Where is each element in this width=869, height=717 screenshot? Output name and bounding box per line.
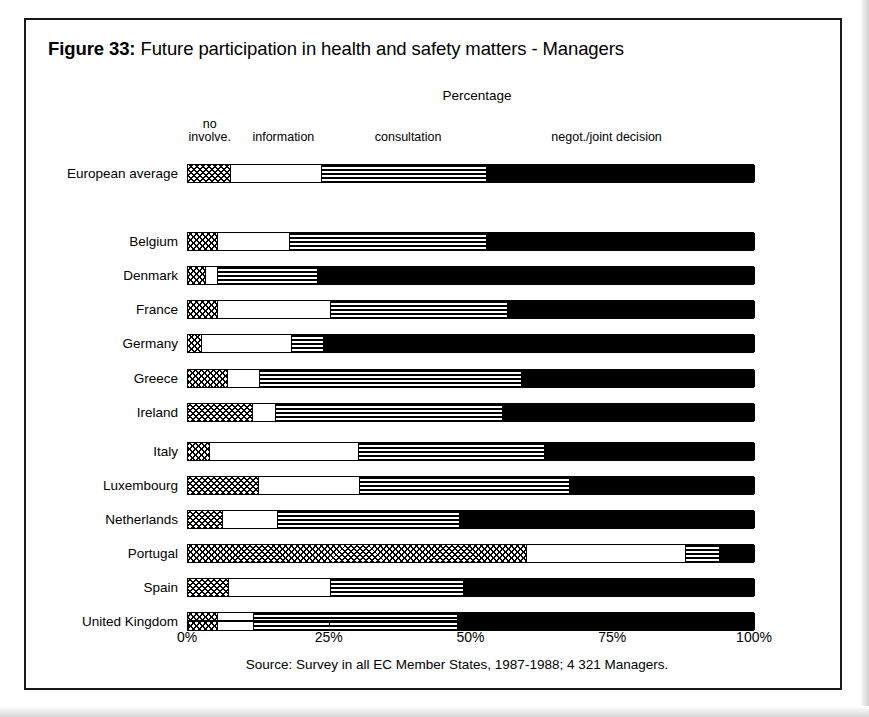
- bar-segment-negotiation: [487, 233, 755, 250]
- bar-segment-consultation: [290, 233, 487, 250]
- page-edge-right: [860, 0, 869, 717]
- bar-segment-information: [228, 370, 260, 387]
- bar-segment-information: [259, 477, 360, 494]
- bar-segment-consultation: [359, 443, 545, 460]
- x-axis-tick: [187, 620, 189, 627]
- row-label-germany: Germany: [26, 333, 178, 355]
- chart-legend: noinvolve.informationconsultationnegot./…: [187, 114, 754, 146]
- x-axis-tick: [471, 620, 473, 627]
- chart-row: Italy: [26, 441, 844, 463]
- bar-segment-consultation: [331, 301, 508, 318]
- bar-segment-no-involve: [188, 477, 259, 494]
- stacked-bar: [187, 476, 754, 495]
- bar-segment-no-involve: [188, 335, 202, 352]
- stacked-bar: [187, 544, 754, 563]
- bar-segment-information: [206, 267, 218, 284]
- bar-segment-negotiation: [324, 335, 755, 352]
- legend-item-2: consultation: [375, 131, 442, 144]
- axis-title: Percentage: [26, 88, 844, 103]
- chart-row: Portugal: [26, 543, 844, 565]
- source-note-text: Source: Survey in all EC Member States, …: [246, 657, 668, 672]
- row-label-portugal: Portugal: [26, 543, 178, 565]
- chart-row: Belgium: [26, 231, 844, 253]
- chart-row: Luxembourg: [26, 475, 844, 497]
- x-axis-tick: [329, 620, 331, 627]
- legend-item-3-label: negot./joint decision: [551, 131, 662, 144]
- chart-row: Greece: [26, 368, 844, 390]
- bar-segment-information: [210, 443, 359, 460]
- x-axis-tick: [612, 620, 614, 627]
- bar-segment-negotiation: [318, 267, 755, 284]
- stacked-bar: [187, 266, 754, 285]
- legend-item-1: information: [252, 131, 314, 144]
- row-label-luxembourg: Luxembourg: [26, 475, 178, 497]
- bar-segment-no-involve: [188, 545, 527, 562]
- row-label-france: France: [26, 299, 178, 321]
- bar-segment-no-involve: [188, 267, 206, 284]
- x-axis-tick-label: 0%: [177, 629, 197, 645]
- row-label-united-kingdom: United Kingdom: [26, 611, 178, 633]
- row-label-greece: Greece: [26, 368, 178, 390]
- source-note: Source: Survey in all EC Member States, …: [26, 657, 844, 672]
- bar-segment-information: [202, 335, 292, 352]
- bar-segment-negotiation: [464, 579, 755, 596]
- chart-row: Netherlands: [26, 509, 844, 531]
- row-label-netherlands: Netherlands: [26, 509, 178, 531]
- x-axis-tick-label: 100%: [736, 629, 772, 645]
- x-axis: 0%25%50%75%100%: [187, 620, 754, 650]
- bar-segment-consultation: [331, 579, 463, 596]
- figure-title-text: Future participation in health and safet…: [140, 38, 623, 59]
- chart-row: Ireland: [26, 402, 844, 424]
- chart-row: Germany: [26, 333, 844, 355]
- bar-segment-no-involve: [188, 165, 231, 182]
- figure-number: Figure 33:: [48, 38, 135, 59]
- row-label-belgium: Belgium: [26, 231, 178, 253]
- chart-row: Denmark: [26, 265, 844, 287]
- row-label-spain: Spain: [26, 577, 178, 599]
- legend-item-0-label: involve.: [188, 131, 230, 144]
- bar-segment-negotiation: [503, 404, 755, 421]
- bar-segment-negotiation: [570, 477, 755, 494]
- stacked-bar: [187, 300, 754, 319]
- chart-row: European average: [26, 163, 844, 185]
- stacked-bar: [187, 578, 754, 597]
- stacked-bar: [187, 164, 754, 183]
- bar-segment-negotiation: [522, 370, 755, 387]
- row-label-european-average: European average: [26, 163, 178, 185]
- bar-segment-consultation: [218, 267, 318, 284]
- bar-segment-no-involve: [188, 511, 223, 528]
- bar-segment-information: [253, 404, 276, 421]
- chart-row: France: [26, 299, 844, 321]
- legend-item-0: noinvolve.: [188, 118, 230, 144]
- bar-segment-information: [229, 579, 332, 596]
- row-label-ireland: Ireland: [26, 402, 178, 424]
- row-label-denmark: Denmark: [26, 265, 178, 287]
- stacked-bar: [187, 232, 754, 251]
- bar-segment-no-involve: [188, 301, 218, 318]
- stacked-bar: [187, 334, 754, 353]
- bar-segment-consultation: [322, 165, 487, 182]
- bar-segment-consultation: [292, 335, 324, 352]
- bar-segment-negotiation: [460, 511, 755, 528]
- bar-segment-no-involve: [188, 404, 253, 421]
- stacked-bar: [187, 403, 754, 422]
- page-edge-bottom: [0, 706, 869, 717]
- bar-segment-negotiation: [508, 301, 755, 318]
- bar-segment-negotiation: [487, 165, 755, 182]
- bar-segment-no-involve: [188, 233, 218, 250]
- figure-frame: Figure 33: Future participation in healt…: [24, 18, 842, 690]
- legend-item-1-label: information: [252, 131, 314, 144]
- figure-title: Figure 33: Future participation in healt…: [48, 38, 624, 60]
- bar-segment-no-involve: [188, 370, 228, 387]
- bar-segment-consultation: [278, 511, 460, 528]
- bar-segment-consultation: [276, 404, 503, 421]
- bar-segment-information: [218, 233, 290, 250]
- bar-segment-consultation: [260, 370, 522, 387]
- x-axis-tick: [753, 620, 755, 627]
- bar-segment-negotiation: [545, 443, 755, 460]
- legend-item-2-label: consultation: [375, 131, 442, 144]
- bar-segment-information: [231, 165, 322, 182]
- row-label-italy: Italy: [26, 441, 178, 463]
- bar-segment-information: [223, 511, 278, 528]
- stacked-bar: [187, 369, 754, 388]
